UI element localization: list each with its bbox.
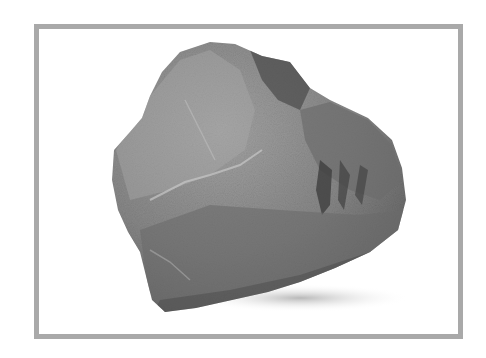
rock — [100, 30, 420, 320]
rock-photo — [0, 0, 486, 358]
